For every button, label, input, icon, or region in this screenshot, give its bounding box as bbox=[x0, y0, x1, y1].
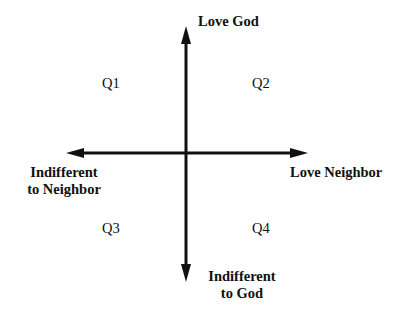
label-line: to God bbox=[204, 285, 280, 302]
quadrant-q1: Q1 bbox=[102, 75, 120, 92]
label-indifferent-to-god: Indifferent to God bbox=[204, 268, 280, 302]
arrow-up-icon bbox=[181, 26, 191, 44]
quadrant-q2: Q2 bbox=[252, 75, 270, 92]
quadrant-q3: Q3 bbox=[102, 220, 120, 237]
label-line: Indifferent bbox=[204, 268, 280, 285]
label-line: Indifferent bbox=[14, 164, 114, 181]
arrow-right-icon bbox=[290, 148, 308, 158]
label-love-neighbor: Love Neighbor bbox=[290, 164, 382, 181]
arrow-down-icon bbox=[181, 264, 191, 282]
label-love-god: Love God bbox=[198, 13, 259, 30]
arrow-left-icon bbox=[66, 148, 84, 158]
quadrant-q4: Q4 bbox=[252, 220, 270, 237]
label-indifferent-to-neighbor: Indifferent to Neighbor bbox=[14, 164, 114, 198]
label-line: to Neighbor bbox=[14, 181, 114, 198]
